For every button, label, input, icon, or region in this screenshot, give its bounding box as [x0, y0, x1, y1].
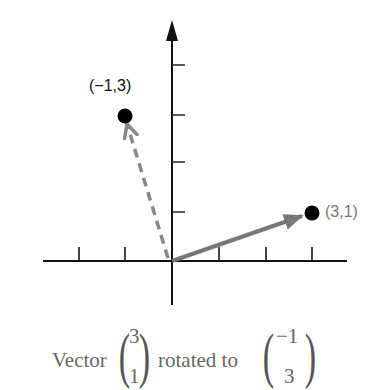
left-paren-icon: ( [263, 324, 274, 386]
matrix-entry-top: −1 [276, 324, 298, 349]
original-vector-matrix: ( 3 1 ) [120, 324, 154, 390]
rotated-vector-matrix: ( −1 3 ) [262, 324, 322, 390]
original-vector-arrow [172, 216, 302, 261]
figure-caption: Vector ( 3 1 ) rotated to ( −1 3 ) [0, 322, 385, 390]
point-rotated-dot [118, 109, 133, 124]
point-original-label: (3,1) [325, 203, 358, 221]
coordinate-plane [0, 0, 385, 305]
caption-word-rotated-to: rotated to [158, 348, 238, 373]
point-original-dot [305, 206, 320, 221]
right-paren-icon: ) [139, 324, 150, 386]
caption-word-vector: Vector [52, 348, 107, 373]
y-ticks [172, 65, 185, 212]
y-axis-arrow-icon [166, 20, 178, 41]
matrix-entry-bottom: 3 [284, 364, 295, 389]
point-rotated-label: (−1,3) [89, 77, 131, 95]
right-paren-icon: ) [305, 324, 316, 386]
rotated-vector-arrow [127, 124, 168, 258]
